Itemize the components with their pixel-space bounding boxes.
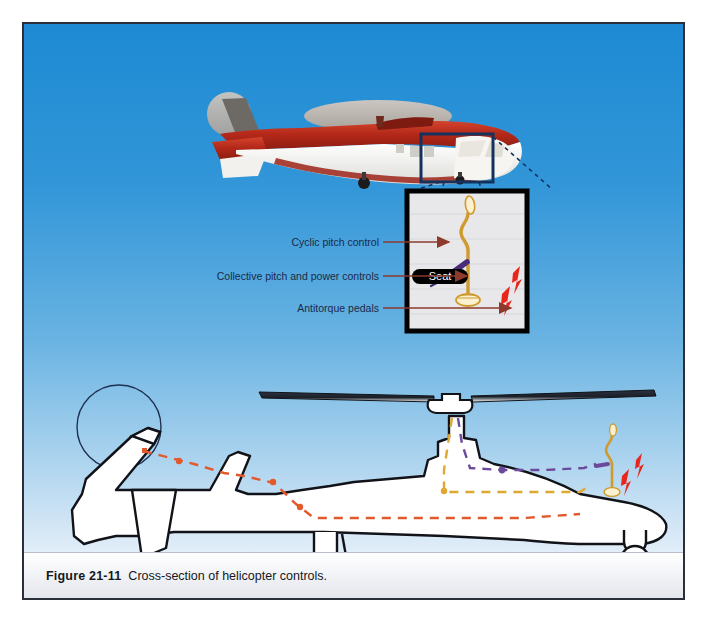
antitorque-node-bend — [297, 504, 303, 510]
antitorque-node-tail — [176, 458, 182, 464]
xs-collective-lever — [606, 436, 612, 488]
xs-cyclic-stick — [596, 464, 608, 466]
label-collective-pitch-and-power-controls: Collective pitch and power controls — [217, 270, 379, 282]
label-antitorque-pedals: Antitorque pedals — [297, 302, 379, 314]
rotor-mast — [376, 116, 384, 127]
xs-collective-base — [604, 488, 620, 497]
cyclic-node — [499, 467, 506, 474]
xs-collective-grip — [610, 424, 617, 436]
xs-antitorque-pedal-rear — [635, 453, 644, 479]
figure-caption-text: Cross-section of helicopter controls. — [128, 569, 327, 583]
xs-rotor-blade-left — [259, 392, 434, 402]
figure-caption-bar: Figure 21-11 Cross-section of helicopter… — [24, 552, 683, 598]
label-cyclic-pitch-control: Cyclic pitch control — [291, 236, 379, 248]
xs-rotor-blade-right — [471, 390, 656, 402]
cabin-window — [424, 146, 434, 157]
figure-panel: Seat Cyclic pitch control Collective pit… — [22, 22, 685, 600]
nose-gear-strut — [458, 172, 462, 177]
figure-page: Seat Cyclic pitch control Collective pit… — [0, 0, 711, 634]
antitorque-node-fwd — [142, 448, 147, 453]
collective-node — [441, 488, 447, 494]
xs-antitorque-pedal-front — [621, 469, 631, 496]
xs-lower-tail-fin — [132, 490, 176, 558]
helicopter-controls-diagram: Seat Cyclic pitch control Collective pit… — [24, 24, 683, 598]
figure-number: Figure 21-11 — [46, 569, 121, 583]
cabin-window — [396, 144, 404, 153]
antitorque-node-mid — [270, 479, 276, 485]
cabin-window — [410, 146, 420, 157]
inset-panel: Seat — [407, 191, 527, 331]
main-gear-strut — [362, 172, 366, 180]
top-helicopter — [207, 92, 522, 189]
collective-base — [456, 294, 480, 306]
